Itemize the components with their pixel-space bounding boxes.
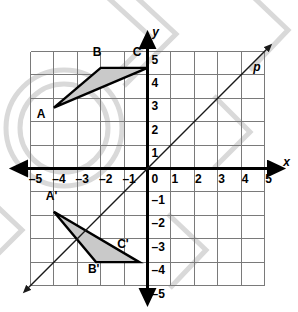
x-tick-label: 5 <box>265 172 272 186</box>
y-tick-label: 4 <box>152 76 159 90</box>
y-tick-label: –1 <box>152 193 166 207</box>
y-tick-label: 3 <box>152 99 159 113</box>
x-tick-label: –3 <box>76 172 90 186</box>
x-axis-label: x <box>282 155 291 169</box>
vertex-label-b: B <box>93 45 102 59</box>
vertex-label-a-prime: A' <box>46 189 58 203</box>
x-tick-label: 4 <box>242 172 249 186</box>
vertex-label-b-prime: B' <box>88 262 100 276</box>
y-tick-label: –4 <box>152 263 166 277</box>
y-tick-label: –5 <box>152 287 166 301</box>
y-tick-label: –3 <box>152 240 166 254</box>
coordinate-plane-svg: –5–4–3–2–11234554321–1–2–3–4–50 ABCA'B'C… <box>0 0 298 312</box>
y-tick-label: –2 <box>152 216 166 230</box>
x-tick-label: –4 <box>52 172 66 186</box>
origin-label: 0 <box>152 172 159 186</box>
vertex-label-c-prime: C' <box>117 237 129 251</box>
y-tick-label: 2 <box>152 123 159 137</box>
x-tick-label: 3 <box>218 172 225 186</box>
y-tick-label: 1 <box>152 146 159 160</box>
vertex-label-c: C <box>133 45 142 59</box>
line-p-label: p <box>252 60 260 74</box>
x-tick-label: –1 <box>122 172 136 186</box>
coordinate-plane-figure: –5–4–3–2–11234554321–1–2–3–4–50 ABCA'B'C… <box>0 0 298 312</box>
x-tick-label: –2 <box>99 172 113 186</box>
y-tick-label: 5 <box>152 53 159 67</box>
x-tick-label: –5 <box>29 172 43 186</box>
vertex-label-a: A <box>37 107 46 121</box>
y-axis-label: y <box>151 25 160 39</box>
x-tick-label: 1 <box>172 172 179 186</box>
x-tick-label: 2 <box>195 172 202 186</box>
